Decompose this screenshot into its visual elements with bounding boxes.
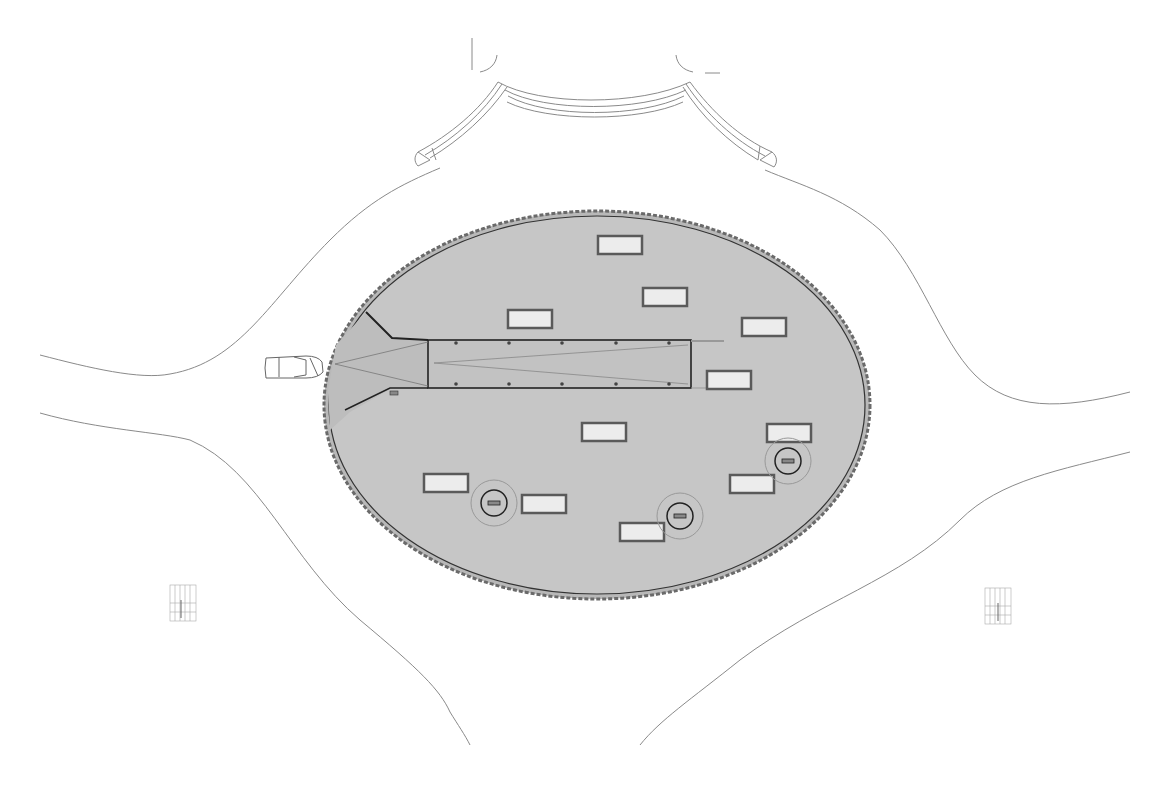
bench xyxy=(643,288,687,306)
bench xyxy=(730,475,774,493)
car-icon xyxy=(265,356,323,378)
bench xyxy=(767,424,811,442)
site-plan-canvas xyxy=(0,0,1175,787)
plaza xyxy=(324,211,870,599)
grid-marker-icon xyxy=(985,588,1011,624)
bench xyxy=(742,318,786,336)
bench xyxy=(424,474,468,492)
bench xyxy=(620,523,664,541)
bench xyxy=(707,371,751,389)
grid-marker-icon xyxy=(170,585,196,621)
bench xyxy=(582,423,626,441)
bench xyxy=(508,310,552,328)
bench xyxy=(598,236,642,254)
top-entrance xyxy=(415,38,776,167)
site-plan-drawing xyxy=(0,0,1175,787)
bench xyxy=(522,495,566,513)
plaza-surface xyxy=(329,216,865,594)
